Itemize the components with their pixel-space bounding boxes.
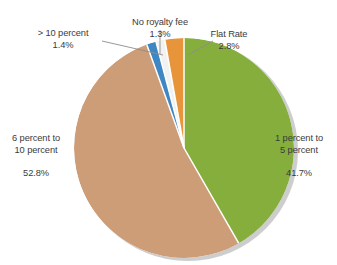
- pie-label-no-royalty-fee-text: No royalty fee: [132, 17, 188, 27]
- pie-label-no-royalty-fee: No royalty fee 1.3%: [122, 6, 198, 52]
- pie-label-6-to-10-percent-value: 52.8%: [2, 168, 70, 179]
- pie-label-6-to-10-percent-line2: 10 percent: [2, 145, 70, 156]
- pie-label-flat-rate: Flat Rate 2.8%: [196, 18, 262, 64]
- pie-label-greater-than-10-percent-text: > 10 percent: [38, 28, 89, 38]
- pie-label-6-to-10-percent-line1: 6 percent to: [12, 133, 60, 143]
- pie-label-no-royalty-fee-value: 1.3%: [122, 29, 198, 40]
- pie-label-flat-rate-value: 2.8%: [196, 41, 262, 52]
- pie-label-1-to-5-percent-line1: 1 percent to: [275, 133, 323, 143]
- pie-chart-figure: > 10 percent 1.4% No royalty fee 1.3% Fl…: [0, 0, 337, 265]
- pie-label-6-to-10-percent: 6 percent to 10 percent 52.8%: [2, 122, 70, 190]
- pie-label-1-to-5-percent-line2: 5 percent: [264, 145, 334, 156]
- pie-label-1-to-5-percent: 1 percent to 5 percent 41.7%: [264, 122, 334, 190]
- pie-label-1-to-5-percent-value: 41.7%: [264, 168, 334, 179]
- pie-label-greater-than-10-percent: > 10 percent 1.4%: [26, 17, 100, 63]
- pie-label-flat-rate-text: Flat Rate: [211, 29, 248, 39]
- pie-slices: [74, 38, 294, 258]
- pie-label-greater-than-10-percent-value: 1.4%: [26, 40, 100, 51]
